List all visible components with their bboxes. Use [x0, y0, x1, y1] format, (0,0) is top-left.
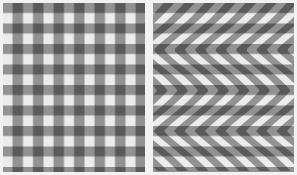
curved-stripe-pattern: [153, 3, 294, 172]
illusion-figure: [0, 0, 297, 175]
right-curved-stripes-panel: [153, 3, 294, 172]
gingham-pattern: [3, 3, 145, 172]
left-checkerboard-panel: [3, 3, 145, 172]
